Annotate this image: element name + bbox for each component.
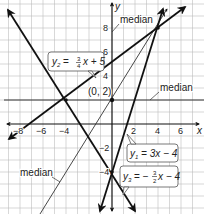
- y-tick-label: −4: [99, 167, 109, 177]
- point-0-2: [110, 98, 114, 102]
- x-axis-label: x: [196, 125, 203, 136]
- x-tick-label: −6: [36, 126, 46, 136]
- y-axis-label: y: [114, 1, 121, 12]
- x-tick-label: −8: [13, 126, 23, 136]
- y-tick-label: −2: [99, 143, 109, 153]
- svg-text:x + 5: x + 5: [82, 56, 105, 67]
- y-tick-label: 8: [103, 23, 108, 33]
- intersection-top: [156, 26, 160, 30]
- y3-equation-label: y3 = − 3 2 x − 4: [120, 166, 180, 195]
- y-tick-label: 4: [103, 71, 108, 81]
- x-tick-label: 2: [131, 126, 136, 136]
- median-label-bottom: median: [20, 167, 53, 178]
- point-label: (0, 2): [88, 86, 111, 97]
- svg-text:y3 = −: y3 = −: [122, 171, 149, 183]
- x-tick-label: 4: [155, 126, 160, 136]
- svg-text:x − 4: x − 4: [157, 171, 180, 182]
- x-tick-label: 6: [178, 126, 183, 136]
- intersection-bottom: [110, 170, 114, 174]
- median-label-top: median: [120, 14, 153, 25]
- svg-text:y2 =: y2 =: [51, 56, 69, 68]
- x-tick-labels: −8 −6 −4 2 4 6 x: [13, 125, 203, 136]
- intersection-left: [64, 98, 68, 102]
- coordinate-graph: −8 −6 −4 2 4 6 x 8 6 4 −2 −4 y (0, 2) me…: [0, 0, 204, 214]
- x-tick-label: −4: [59, 126, 69, 136]
- y1-equation-label: y1 = 3x − 4: [127, 134, 178, 162]
- median-label-right: median: [160, 82, 193, 93]
